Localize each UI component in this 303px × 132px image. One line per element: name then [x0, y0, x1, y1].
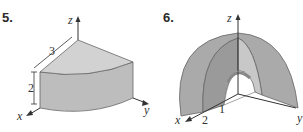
figure-5-radius-label: 3	[49, 44, 55, 58]
figure-6-solid	[179, 14, 298, 122]
figure-5-y-label: y	[143, 103, 150, 117]
figure-6-outer-radius-label: 2	[202, 113, 208, 127]
figure-5-height-label: 2	[28, 81, 34, 95]
figure-6-inner-radius-label: 1	[219, 102, 225, 116]
figure-5-solid	[26, 16, 149, 116]
figure-5-x-label: x	[16, 109, 23, 123]
figure-6-x-label: x	[174, 113, 181, 127]
figure-6-z-label: z	[226, 11, 232, 25]
figure-6-y-label: y	[296, 111, 303, 125]
figure-5-z-label: z	[67, 13, 73, 27]
diagram-canvas: z x y 3 2 z x y 1 2	[0, 0, 303, 132]
